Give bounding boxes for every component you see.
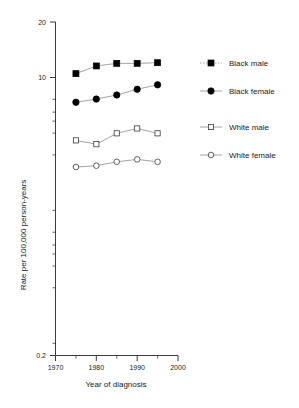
legend-item-white-male[interactable]: White male (200, 123, 270, 132)
legend-label: White female (229, 151, 276, 160)
chart-legend: Black maleBlack femaleWhite maleWhite fe… (200, 59, 276, 160)
data-point (114, 92, 120, 98)
data-point (154, 82, 160, 88)
y-axis-title: Rate per 100,000 person-years (19, 180, 28, 291)
x-axis-ticks (56, 356, 179, 362)
legend-item-black-female[interactable]: Black female (200, 87, 275, 96)
data-point (94, 142, 99, 147)
legend-marker (208, 60, 214, 66)
x-tick-label-1970: 1970 (48, 364, 64, 371)
data-point (134, 86, 140, 92)
x-tick-label-1990: 1990 (129, 364, 145, 371)
legend-item-white-female[interactable]: White female (200, 151, 276, 160)
data-point (155, 131, 160, 136)
legend-label: White male (229, 123, 270, 132)
data-point (94, 163, 100, 169)
legend-marker (208, 152, 214, 158)
data-point (73, 164, 79, 170)
series-white-male (73, 126, 160, 147)
chart-figure: 20 10 0.2 1970 1980 1990 2000 Rate per 1… (0, 0, 299, 408)
legend-label: Black female (229, 87, 275, 96)
legend-label: Black male (229, 59, 269, 68)
data-point (73, 138, 78, 143)
chart-plot-area: 20 10 0.2 1970 1980 1990 2000 Rate per 1… (0, 0, 299, 408)
data-point (93, 63, 99, 69)
data-point (134, 157, 140, 163)
series-black-female (73, 82, 161, 106)
y-axis-major-ticks (50, 22, 56, 356)
x-axis-title: Year of diagnosis (85, 380, 146, 389)
series-white-female (73, 157, 160, 170)
legend-marker (208, 124, 213, 129)
data-point (135, 126, 140, 131)
data-point (93, 96, 99, 102)
data-point (114, 131, 119, 136)
data-point (73, 71, 79, 77)
legend-item-black-male[interactable]: Black male (200, 59, 269, 68)
legend-marker (208, 88, 214, 94)
data-point (155, 60, 161, 66)
data-point (114, 159, 120, 165)
data-point (73, 99, 79, 105)
y-tick-label-20: 20 (38, 19, 46, 26)
data-point (134, 60, 140, 66)
series-black-male (73, 60, 161, 77)
y-tick-label-0-2: 0.2 (36, 352, 46, 359)
x-tick-label-2000: 2000 (170, 364, 186, 371)
data-point (155, 159, 161, 165)
data-point (114, 60, 120, 66)
data-series-layer (73, 60, 161, 170)
y-tick-label-10: 10 (38, 74, 46, 81)
x-tick-label-1980: 1980 (89, 364, 105, 371)
